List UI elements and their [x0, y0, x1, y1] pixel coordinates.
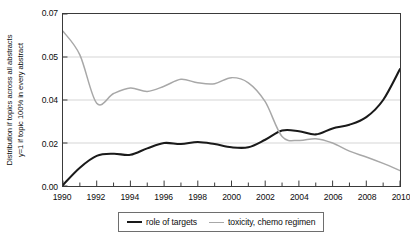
x-tick-label: 2002 — [256, 192, 275, 202]
y-tick-label: 0.05 — [26, 52, 58, 62]
x-tick-label: 1996 — [154, 192, 173, 202]
series-line-0 — [63, 69, 400, 185]
x-tick-label: 2006 — [324, 192, 343, 202]
legend-label: toxicity, chemo regimen — [228, 217, 315, 227]
legend-line-swatch-icon — [127, 221, 142, 223]
plot-area — [62, 13, 401, 187]
x-tick-label: 2008 — [358, 192, 377, 202]
y-tick-label: 0.07 — [26, 8, 58, 18]
x-tick-label: 2000 — [222, 192, 241, 202]
y-axis-tick-labels: 0.070.050.040.020.00 — [26, 0, 58, 242]
y-tick-label: 0.02 — [26, 139, 58, 149]
chart-legend: role of targetstoxicity, chemo regimen — [118, 212, 324, 232]
chart-canvas — [63, 14, 400, 186]
gridlines — [63, 57, 400, 143]
data-series-group — [63, 31, 400, 185]
x-tick-label: 2004 — [290, 192, 309, 202]
y-tick-label: 0.04 — [26, 95, 58, 105]
legend-item[interactable]: role of targets — [127, 217, 197, 227]
legend-label: role of targets — [146, 217, 197, 227]
legend-item[interactable]: toxicity, chemo regimen — [209, 217, 315, 227]
x-tick-label: 2010 — [392, 192, 410, 202]
series-line-1 — [63, 31, 400, 170]
x-axis-tick-marks — [63, 181, 400, 186]
x-tick-label: 1994 — [120, 192, 139, 202]
x-tick-label: 1990 — [53, 192, 72, 202]
x-tick-label: 1992 — [87, 192, 106, 202]
y-tick-label: 0.00 — [26, 182, 58, 192]
y-axis-tick-marks — [63, 14, 67, 186]
y-axis-title-line-1: Distribution if topics across all abstra… — [5, 35, 16, 166]
x-tick-label: 1998 — [188, 192, 207, 202]
legend-line-swatch-icon — [209, 222, 224, 223]
y-axis-title-line-2: y=1 if topic 100% in every abstract — [15, 35, 26, 166]
x-axis-tick-labels: 1990199219941996199820002002200420062008… — [62, 192, 401, 206]
